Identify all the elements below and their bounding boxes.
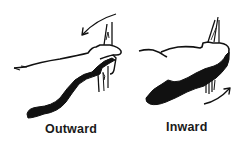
outward-label: Outward	[45, 122, 97, 136]
curved-arrow-right-icon	[204, 88, 230, 104]
inward-panel: Inward	[125, 0, 246, 145]
arm-shadow	[27, 58, 115, 118]
arm-shadow	[146, 52, 229, 105]
arm-outline	[14, 45, 121, 74]
inward-label: Inward	[166, 120, 207, 134]
arm-outline	[139, 42, 229, 62]
curved-arrow-left-icon	[82, 14, 116, 35]
outward-panel: Outward	[0, 0, 125, 145]
